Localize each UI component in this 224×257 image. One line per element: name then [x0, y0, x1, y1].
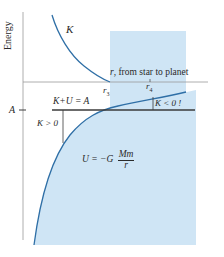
x-axis-label: r, from star to planet	[110, 68, 188, 78]
k-positive-label: K > 0	[37, 119, 58, 128]
kinetic-label: K	[66, 24, 73, 35]
potential-formula: U = −G Mm r	[82, 150, 134, 170]
total-energy-label: K+U = A	[53, 97, 89, 107]
energy-diagram	[0, 0, 224, 257]
energy-level-label: A	[9, 105, 15, 115]
y-axis-label: Energy	[3, 21, 13, 50]
r4-label: r4	[146, 82, 153, 93]
kinetic-curve	[52, 15, 110, 82]
r3-label: r3	[103, 86, 110, 97]
k-negative-label: K < 0 !	[155, 99, 181, 108]
